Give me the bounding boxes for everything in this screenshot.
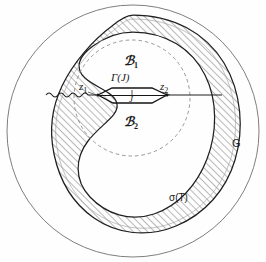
figure-canvas: [0, 0, 266, 262]
label-cut-j: J: [129, 95, 133, 104]
label-region-d2-sub: 2: [134, 122, 138, 131]
label-region-d2-main: ℬ: [124, 114, 134, 129]
label-region-d2: ℬ2: [124, 115, 138, 131]
label-contour-gamma-j: Γ(J): [111, 72, 129, 83]
endpoint-z1-dot: [97, 94, 100, 97]
label-spectrum-sigma-t: σ(T): [169, 193, 188, 203]
label-region-d1: ℬ1: [124, 54, 138, 70]
label-point-z2: z2: [160, 81, 168, 95]
label-domain-g: G: [232, 138, 241, 149]
label-point-z1-sub: 1: [83, 86, 87, 95]
label-region-d1-main: ℬ: [124, 53, 134, 68]
label-point-z1: z1: [79, 81, 87, 95]
label-region-d1-sub: 1: [134, 61, 138, 70]
label-point-z2-sub: 2: [164, 86, 168, 95]
mathematical-figure: ℬ1 ℬ2 Γ(J) J z1 z2 σ(T) G: [0, 0, 266, 262]
